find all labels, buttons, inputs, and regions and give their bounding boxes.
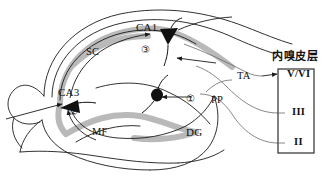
arrow-into-ca3-from-left — [6, 104, 62, 119]
dg-axon — [142, 101, 154, 113]
entorhinal-layer-iii: III — [292, 107, 305, 118]
hippocampus-circuit-figure: CA1 CA3 DG SC MF PP TA ① ② ③ 内嗅皮层 V/VI I… — [0, 0, 326, 182]
connector-pp-curve — [206, 80, 232, 92]
outline-ventral-wave — [20, 151, 178, 163]
pathway-label-mf: MF — [92, 127, 108, 138]
pathway-label-pp: PP — [211, 95, 223, 106]
step-marker-3: ③ — [141, 45, 150, 55]
step-marker-1: ① — [186, 94, 195, 104]
ca3-apical-dendrite — [78, 102, 96, 103]
entorhinal-cortex-title: 内嗅皮层 — [272, 51, 318, 62]
region-label-dg: DG — [186, 127, 202, 138]
ca3-pyramidal-neuron — [60, 100, 96, 113]
dg-soma-icon — [151, 89, 163, 102]
arrow-into-ca1-apical — [177, 58, 216, 63]
arrow-into-layer-v-vi — [262, 74, 277, 76]
entorhinal-layer-ii: II — [294, 137, 303, 148]
outline-left-lobe-upper — [8, 85, 44, 124]
region-label-ca3: CA3 — [58, 87, 79, 98]
dg-granule-neuron — [142, 75, 168, 113]
region-label-ca1: CA1 — [136, 22, 157, 33]
step-marker-2: ② — [69, 107, 78, 117]
ca1-soma-icon — [160, 28, 178, 45]
dg-dendrite — [158, 75, 168, 89]
dg-upper-blade-band — [66, 115, 196, 134]
outline-ventral-wave-lower — [178, 150, 224, 163]
ca1-basal-dendrite — [171, 18, 182, 28]
figure-canvas — [0, 0, 326, 182]
ca1-pyramidal-neuron — [160, 18, 182, 66]
pathway-label-ta: TA — [237, 71, 251, 82]
entorhinal-layer-v-vi: V/VI — [287, 69, 310, 80]
pathway-label-sc: SC — [86, 47, 99, 58]
outline-subiculum-sweep — [20, 120, 42, 152]
ca1-apical-dendrite — [164, 45, 168, 66]
